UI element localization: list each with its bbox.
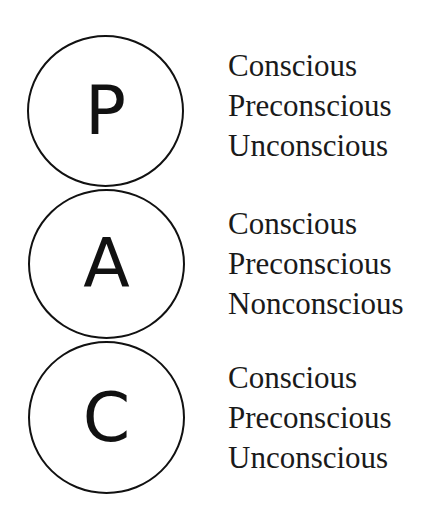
level-label: Nonconscious [228,284,404,324]
level-label: Conscious [228,204,404,244]
level-label: Conscious [228,358,392,398]
level-label: Unconscious [228,126,392,166]
parent-levels: Conscious Preconscious Unconscious [228,46,392,166]
child-letter: C [83,384,130,452]
level-label: Preconscious [228,244,404,284]
child-levels: Conscious Preconscious Unconscious [228,358,392,478]
child-ego-circle: C [28,341,185,494]
level-label: Conscious [228,46,392,86]
level-label: Preconscious [228,86,392,126]
parent-letter: P [85,77,126,145]
level-label: Preconscious [228,398,392,438]
level-label: Unconscious [228,438,392,478]
adult-levels: Conscious Preconscious Nonconscious [228,204,404,324]
adult-letter: A [83,230,130,298]
parent-ego-circle: P [27,35,184,187]
adult-ego-circle: A [28,189,185,339]
